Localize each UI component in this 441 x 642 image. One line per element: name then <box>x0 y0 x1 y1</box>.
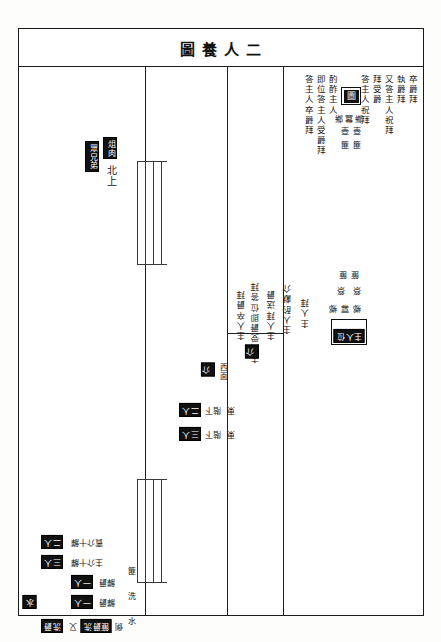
annotation-col-7: 即位答主人受爵拜 <box>315 75 325 157</box>
chip-zhong-xiong-di: 眾兄弟 <box>85 141 99 172</box>
vessel-label-mi: 冪 <box>345 115 353 125</box>
annotation-col-8: 答主人卒爵拜 <box>303 75 313 136</box>
chip-one-person-1: 一人 <box>71 575 93 589</box>
mid-vessel-mi: 冪 <box>341 303 349 313</box>
label-bei-shang: 北上 <box>104 165 117 187</box>
chip-jie-center: 介 <box>201 363 215 377</box>
vessel-label-hu-w: 壺 <box>353 127 361 137</box>
chip-wash-vessel-a: 洗爵 <box>41 619 63 633</box>
mid-vessel-fei-e: 篚 <box>339 269 347 279</box>
chip-three-persons-lower: 三人 <box>41 555 63 569</box>
host-position-box: 主人位 <box>331 319 368 345</box>
chip-two-persons-lower: 二人 <box>41 535 63 549</box>
label-zhi-jue-1: 觶爵 <box>99 577 115 587</box>
label-you: 又 <box>69 621 77 631</box>
annotation-col-1: 卒爵拜 <box>407 75 417 106</box>
mid-vessel-ji-w: 祭 <box>353 285 361 295</box>
mid-annotation-col-4: 主人酌獻介 <box>283 283 293 334</box>
label-fei-xi-shui: 篚 洗 水 <box>125 567 135 629</box>
mid-vessel-xiang-e: 鄉 <box>329 303 337 313</box>
page-title: 圖養人二 <box>19 37 423 58</box>
label-east-1: 東 <box>227 405 235 415</box>
label-ce: 側 <box>115 621 123 631</box>
label-guest-jie-ten-2: 主介十觶 <box>71 557 103 567</box>
chip-wash-vessel-b: 篚爵洗 <box>81 619 112 633</box>
vessel-label-fei-e: 篚 <box>341 141 349 151</box>
chip-three-persons: 三人 <box>179 427 201 441</box>
diagram-frame: 圖養人二 卒爵拜 執爵拜 又答主人祝拜 拜受爵 答主 <box>18 28 424 616</box>
mid-vessel-ji-e: 祭 <box>337 285 345 295</box>
page-canvas: 圖養人二 卒爵拜 執爵拜 又答主人祝拜 拜受爵 答主 <box>0 0 441 642</box>
chip-water: 水 <box>23 595 37 609</box>
chip-one-person-2: 一人 <box>71 595 93 609</box>
chip-two-persons: 二人 <box>179 403 201 417</box>
chip-host-position: 主人位 <box>334 329 365 343</box>
diagram-body: 卒爵拜 執爵拜 又答主人祝拜 拜受爵 答主人祝拜 酌酢主人 即位答主人受爵拜 答… <box>19 67 423 615</box>
seal-glyph-box: 圖 <box>341 87 361 105</box>
label-guest-jie-ten-1: 賓介十觶 <box>71 537 103 547</box>
annotation-col-3: 又答主人祝拜 <box>383 75 393 136</box>
hall-divider-center <box>227 67 228 615</box>
label-zhi-jue-2: 觶爵 <box>99 597 115 607</box>
title-band: 圖養人二 <box>19 29 423 67</box>
seal-glyph: 圖 <box>344 90 359 103</box>
vessel-label-hu-e: 壺 <box>341 127 349 137</box>
chip-jie-mid: 介 <box>245 345 259 359</box>
annotation-col-6: 酌酢主人 <box>327 75 337 116</box>
hall-divider-east <box>283 67 284 615</box>
vessel-label-fei-w: 篚 <box>353 141 361 151</box>
mid-annotation-col-5: 主人拜 <box>301 297 311 328</box>
vessel-label-xiang-e: 鄉 <box>335 115 343 125</box>
annotation-col-4: 拜受爵 <box>371 75 381 106</box>
lower-stair-icon <box>137 479 167 583</box>
label-xi-mian: 西面 <box>217 363 227 381</box>
mid-annotation-col-3: 主人拜送爵 <box>267 289 277 340</box>
label-stair-below-1: 階下 <box>205 405 221 415</box>
label-stair-below-2: 階下 <box>205 429 221 439</box>
mid-annotation-col-1: 主人卒爵拜 <box>237 289 247 340</box>
mid-vessel-fei-w: 篚 <box>351 269 359 279</box>
annotation-col-2: 執爵拜 <box>395 75 405 106</box>
chip-zu-rou: 俎肉 <box>103 137 117 159</box>
vessel-label-xiang-w: 鄉 <box>355 115 363 125</box>
upper-stair-icon <box>137 161 167 265</box>
label-east-2: 東 <box>227 429 235 439</box>
mid-vessel-xiang-w: 鄉 <box>353 303 361 313</box>
